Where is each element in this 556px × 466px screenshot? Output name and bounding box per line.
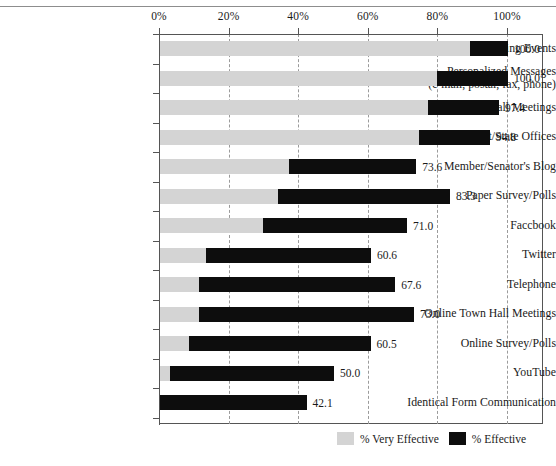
bar-value-label: 71.0 bbox=[413, 220, 433, 232]
bar-row: 100.0 bbox=[159, 41, 556, 56]
x-tick-mark-60pct bbox=[368, 28, 369, 35]
bar-segment-effective bbox=[278, 189, 450, 204]
bar-row: 71.0 bbox=[159, 218, 556, 233]
bar-row: 73.0 bbox=[159, 307, 556, 322]
bar-value-label: 94.8 bbox=[496, 131, 516, 143]
bar-row: 83.3 bbox=[159, 189, 556, 204]
bar-segment-very-effective bbox=[160, 41, 470, 56]
y-tick-mark-8 bbox=[153, 270, 159, 271]
stacked-bar-chart: 0%20%40%60%80%100% Attending EventsPerso… bbox=[0, 0, 556, 466]
x-tick-label-100pct: 100% bbox=[493, 10, 521, 22]
bar-segment-effective bbox=[206, 248, 371, 263]
bar-value-label: 73.6 bbox=[422, 161, 442, 173]
y-tick-mark-1 bbox=[153, 64, 159, 65]
cut-off-caption bbox=[8, 460, 548, 466]
x-tick-label-20pct: 20% bbox=[218, 10, 240, 22]
y-tick-mark-4 bbox=[153, 152, 159, 153]
bar-value-label: 97.4 bbox=[505, 102, 525, 114]
bar-row: 94.8 bbox=[159, 130, 556, 145]
bar-segment-very-effective bbox=[160, 189, 278, 204]
y-tick-mark-6 bbox=[153, 211, 159, 212]
bar-row: 60.6 bbox=[159, 248, 556, 263]
bar-segment-effective bbox=[470, 41, 508, 56]
legend-item-effective: % Effective bbox=[449, 432, 526, 445]
bar-segment-effective bbox=[199, 307, 414, 322]
bar-segment-effective bbox=[419, 130, 490, 145]
bar-segment-effective bbox=[428, 100, 499, 115]
bar-row: 50.0 bbox=[159, 366, 556, 381]
x-tick-label-60pct: 60% bbox=[357, 10, 379, 22]
y-tick-mark-11 bbox=[153, 359, 159, 360]
bar-row: 60.5 bbox=[159, 336, 556, 351]
bar-value-label: 67.6 bbox=[401, 279, 421, 291]
bar-value-label: 42.1 bbox=[313, 397, 333, 409]
bar-segment-very-effective bbox=[160, 100, 428, 115]
legend-swatch-effective bbox=[449, 432, 466, 445]
bar-value-label: 83.3 bbox=[456, 190, 476, 202]
x-tick-mark-0pct bbox=[159, 28, 160, 35]
bar-segment-effective bbox=[437, 71, 508, 86]
legend-label-very-effective: % Very Effective bbox=[360, 433, 439, 445]
bar-segment-very-effective bbox=[160, 248, 206, 263]
bar-segment-effective bbox=[289, 159, 416, 174]
chart-legend: % Very Effective % Effective bbox=[337, 432, 526, 445]
x-tick-mark-80pct bbox=[437, 28, 438, 35]
x-tick-label-40pct: 40% bbox=[287, 10, 309, 22]
y-tick-mark-end bbox=[153, 418, 159, 419]
bar-row: 42.1 bbox=[159, 395, 556, 410]
bar-segment-very-effective bbox=[160, 130, 419, 145]
legend-swatch-very-effective bbox=[337, 432, 354, 445]
y-tick-mark-9 bbox=[153, 300, 159, 301]
bar-value-label: 60.6 bbox=[377, 249, 397, 261]
y-tick-mark-3 bbox=[153, 123, 159, 124]
bar-value-label: 100.0 bbox=[514, 43, 540, 55]
legend-label-effective: % Effective bbox=[472, 433, 526, 445]
bar-segment-very-effective bbox=[160, 71, 437, 86]
bar-segment-effective bbox=[170, 366, 334, 381]
bar-value-label: 73.0 bbox=[420, 308, 440, 320]
bar-value-label: 60.5 bbox=[377, 338, 397, 350]
bar-segment-effective bbox=[263, 218, 407, 233]
x-tick-label-0pct: 0% bbox=[151, 10, 167, 22]
bar-value-label: 50.0 bbox=[340, 367, 360, 379]
y-tick-mark-10 bbox=[153, 329, 159, 330]
x-tick-mark-100pct bbox=[507, 28, 508, 35]
x-tick-label-80pct: 80% bbox=[427, 10, 449, 22]
bar-segment-very-effective bbox=[160, 159, 289, 174]
y-tick-mark-2 bbox=[153, 93, 159, 94]
bar-row: 67.6 bbox=[159, 277, 556, 292]
bar-row: 100.0 bbox=[159, 71, 556, 86]
y-tick-mark-12 bbox=[153, 388, 159, 389]
bar-segment-effective bbox=[199, 277, 395, 292]
y-tick-mark-7 bbox=[153, 241, 159, 242]
bar-segment-very-effective bbox=[160, 277, 199, 292]
y-tick-mark-0 bbox=[153, 34, 159, 35]
bar-segment-effective bbox=[160, 395, 307, 410]
bar-row: 97.4 bbox=[159, 100, 556, 115]
bar-segment-very-effective bbox=[160, 366, 170, 381]
bar-segment-effective bbox=[189, 336, 371, 351]
bar-row: 73.6 bbox=[159, 159, 556, 174]
bar-segment-very-effective bbox=[160, 307, 199, 322]
x-tick-mark-40pct bbox=[298, 28, 299, 35]
x-tick-mark-20pct bbox=[229, 28, 230, 35]
y-tick-mark-5 bbox=[153, 182, 159, 183]
bar-segment-very-effective bbox=[160, 336, 189, 351]
legend-item-very-effective: % Very Effective bbox=[337, 432, 439, 445]
bar-segment-very-effective bbox=[160, 218, 263, 233]
bar-value-label: 100.0 bbox=[514, 72, 540, 84]
